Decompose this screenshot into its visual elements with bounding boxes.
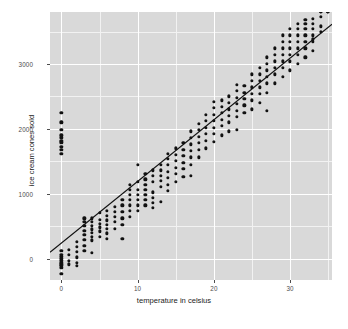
y-tick-mark	[47, 64, 50, 65]
x-tick-mark	[214, 280, 215, 283]
y-tick-label: 0	[29, 255, 33, 262]
y-tick-mark	[47, 129, 50, 130]
x-tick-label: 30	[286, 285, 293, 292]
y-axis-title: ice cream cones sold	[27, 71, 36, 231]
x-tick-mark	[290, 280, 291, 283]
scatter-plot-figure: 01020300100020003000 temperature in cels…	[0, 0, 348, 329]
x-tick-mark	[61, 280, 62, 283]
y-tick-mark	[47, 194, 50, 195]
y-tick-mark	[47, 259, 50, 260]
x-tick-label: 10	[134, 285, 141, 292]
x-tick-label: 0	[60, 285, 64, 292]
x-tick-label: 20	[210, 285, 217, 292]
x-axis-title: temperature in celsius	[0, 296, 348, 305]
plot-panel	[50, 12, 332, 280]
y-tick-label: 3000	[19, 60, 33, 67]
x-tick-mark	[138, 280, 139, 283]
